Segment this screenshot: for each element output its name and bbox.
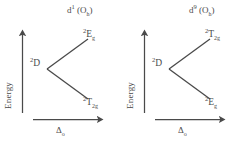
free-ion-term-label: 2D [152,59,162,69]
crystal-field-splitting-figure: d1 (Oh) 2D 2Eg 2T2g Δo Energy d9 (Oh) 2D [0,0,243,142]
upper-state-term-label: 2T2g [205,30,220,40]
correlation-line-upper [169,39,210,69]
upper-state-term-label: 2Eg [83,30,95,40]
correlation-line-lower [47,69,88,99]
delta-o-axis-label: Δo [56,126,65,135]
free-ion-term-label: 2D [30,59,40,69]
energy-axis-label: Energy [4,82,13,109]
panel-left-graphics [0,0,121,142]
delta-o-axis-label: Δo [178,126,187,135]
panel-title-d1: d1 (Oh) [67,6,93,15]
correlation-line-upper [47,39,88,69]
panel-title-d9: d9 (Oh) [189,6,215,15]
lower-state-term-label: 2Eg [205,98,217,108]
panel-right-graphics [122,0,243,142]
diagram-panel-d9: d9 (Oh) 2D 2T2g 2Eg Δo Energy [122,0,243,142]
lower-state-term-label: 2T2g [83,98,98,108]
diagram-panel-d1: d1 (Oh) 2D 2Eg 2T2g Δo Energy [0,0,121,142]
energy-axis-label: Energy [126,82,135,109]
correlation-line-lower [169,69,210,99]
